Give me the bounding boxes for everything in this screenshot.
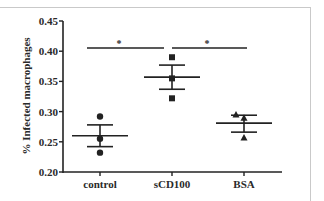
y-tick-label: 0.30: [39, 106, 59, 118]
x-category-label: BSA: [233, 178, 254, 190]
data-point-triangle: [233, 111, 240, 118]
group-control: [72, 113, 128, 156]
data-point-square: [169, 75, 175, 81]
y-axis-title: % Infected macrophages: [20, 37, 32, 155]
data-point-circle: [97, 113, 103, 119]
y-tick-label: 0.40: [39, 45, 59, 57]
data-point-square: [169, 54, 175, 60]
y-tick-label: 0.20: [39, 166, 59, 178]
significance-bars: **: [87, 38, 247, 49]
data-point-circle: [97, 136, 103, 142]
data-groups: [72, 54, 272, 156]
significance-asterisk: *: [117, 38, 122, 49]
y-tick-label: 0.25: [39, 136, 59, 148]
y-tick-label: 0.35: [39, 75, 59, 87]
data-point-triangle: [241, 134, 248, 141]
x-category-label: control: [83, 178, 116, 190]
data-point-circle: [97, 149, 103, 155]
data-point-square: [169, 95, 175, 101]
group-BSA: [216, 111, 272, 140]
y-tick-label: 0.45: [39, 15, 59, 27]
group-sCD100: [144, 54, 200, 101]
scatter-chart: 0.200.250.300.350.400.45 controlsCD100BS…: [0, 0, 324, 201]
x-category-label: sCD100: [154, 178, 191, 190]
significance-asterisk: *: [205, 38, 210, 49]
x-axis: controlsCD100BSA: [63, 172, 282, 190]
y-axis: 0.200.250.300.350.400.45: [39, 15, 63, 178]
